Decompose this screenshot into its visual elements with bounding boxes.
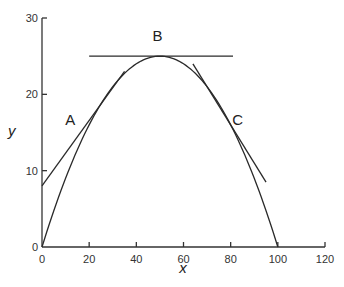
axes — [42, 18, 325, 247]
x-tick-label: 120 — [316, 253, 334, 265]
point-label-c: C — [232, 111, 243, 128]
point-label-a: A — [65, 111, 75, 128]
y-tick-label: 30 — [26, 12, 38, 24]
tangent-A-line — [42, 71, 125, 185]
x-axis-label: x — [178, 259, 187, 276]
x-tick-label: 100 — [269, 253, 287, 265]
x-tick-label: 80 — [225, 253, 237, 265]
curve-line — [42, 56, 278, 247]
y-tick-label: 0 — [32, 241, 38, 253]
annotations: ABC — [65, 27, 243, 128]
x-tick-label: 0 — [39, 253, 45, 265]
tick-labels: 0204060801001200102030 — [26, 12, 334, 265]
chart: 0204060801001200102030 ABC x y — [0, 0, 344, 287]
x-tick-label: 20 — [83, 253, 95, 265]
series — [42, 56, 278, 247]
y-tick-label: 20 — [26, 88, 38, 100]
x-tick-label: 40 — [130, 253, 142, 265]
tangent-C-line — [193, 64, 266, 182]
point-label-b: B — [153, 27, 163, 44]
y-tick-label: 10 — [26, 165, 38, 177]
y-axis-label: y — [7, 122, 17, 139]
